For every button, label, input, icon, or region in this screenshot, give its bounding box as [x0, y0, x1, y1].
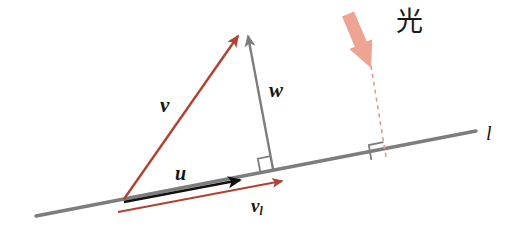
vector-w-label: w [269, 80, 283, 101]
light-label: 光 [396, 8, 423, 35]
vector-v-label: v [160, 95, 169, 116]
vector-v-sub-l-subscript: l [259, 205, 262, 218]
vector-w-arrow [248, 36, 273, 169]
vector-diagram-figure: v w u vl l 光 [0, 0, 518, 232]
right-angle-marker-icon-w [258, 156, 271, 171]
vector-v-sub-l-label: vl [251, 196, 263, 217]
thick-down-arrow-icon [342, 11, 372, 68]
vector-u-label: u [175, 163, 186, 183]
line-l-label: l [486, 123, 492, 143]
